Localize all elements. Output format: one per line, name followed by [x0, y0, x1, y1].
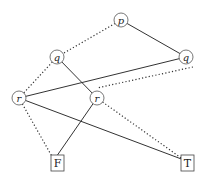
edge-r1-T: [19, 98, 184, 160]
node-p: p: [114, 13, 128, 27]
node-q-right: q: [179, 50, 193, 64]
edge-q1-r2: [57, 57, 97, 98]
svg-text:p: p: [118, 15, 125, 26]
edge-r2-F: [54, 98, 97, 160]
terminal-true: T: [181, 155, 194, 171]
node-q-left: q: [50, 50, 64, 64]
edge-r1-F: [19, 98, 54, 160]
edges: [19, 20, 193, 160]
svg-text:T: T: [184, 157, 192, 170]
edge-q2-r1: [19, 57, 186, 98]
node-r-left: r: [12, 91, 26, 105]
svg-text:q: q: [183, 52, 189, 63]
edge-r2-T: [97, 98, 184, 160]
edge-p-q2: [121, 20, 186, 57]
node-r-middle: r: [90, 91, 104, 105]
edge-q2-r2: [97, 67, 193, 88]
terminal-false: F: [51, 155, 64, 171]
edge-q1-r1: [19, 57, 57, 98]
svg-text:q: q: [54, 52, 60, 63]
svg-text:F: F: [54, 157, 62, 170]
bdd-diagram: p q q r r F T: [0, 0, 205, 186]
edge-p-q1: [57, 20, 121, 57]
